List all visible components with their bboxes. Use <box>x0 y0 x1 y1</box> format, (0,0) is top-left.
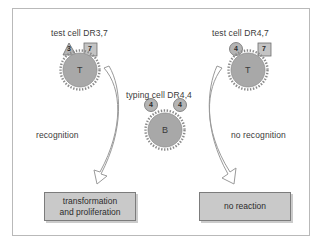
caption-test-cell-right: test cell DR4,7 <box>212 28 269 38</box>
marker-label-4-a: 4 <box>149 101 153 108</box>
arrow-right-no-recognition <box>209 66 236 184</box>
figure-root: test cell DR3,7 test cell DR4,7 typing c… <box>0 0 325 245</box>
pathway-label-recognition: recognition <box>36 130 79 140</box>
outcome-line-1: transformation <box>60 196 121 207</box>
arrow-left-recognition <box>94 66 119 184</box>
marker-label-4-right: 4 <box>234 45 238 52</box>
marker-label-3: 3 <box>67 45 71 52</box>
outcome-no-reaction-text: no reaction <box>224 201 266 212</box>
outcome-box-transformation: transformation and proliferation <box>44 192 136 221</box>
marker-label-4-b: 4 <box>178 101 182 108</box>
cell-letter-typing: B <box>162 125 168 135</box>
cell-letter-left: T <box>77 65 83 75</box>
outcome-line-2: and proliferation <box>60 207 121 218</box>
caption-test-cell-left: test cell DR3,7 <box>51 28 108 38</box>
marker-label-7-left: 7 <box>88 45 92 52</box>
outcome-box-no-reaction: no reaction <box>199 192 291 221</box>
marker-label-7-right: 7 <box>262 45 266 52</box>
cell-letter-right: T <box>245 65 251 75</box>
caption-typing-cell: typing cell DR4,4 <box>126 90 192 100</box>
pathway-label-no-recognition: no recognition <box>231 130 286 140</box>
